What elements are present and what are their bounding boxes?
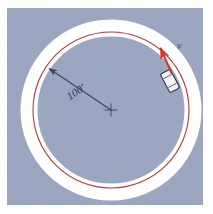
circular-track-figure: 100' v bbox=[0, 0, 213, 214]
velocity-label: v bbox=[177, 40, 182, 51]
figure-container: 100' v bbox=[0, 0, 213, 214]
